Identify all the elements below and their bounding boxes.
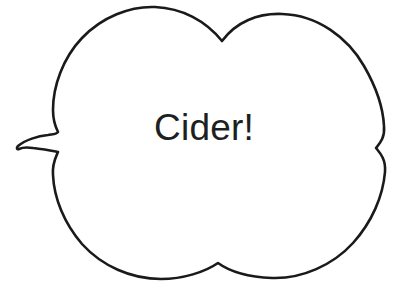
bubble-text: Cider! <box>0 106 408 150</box>
image-canvas: Cider! <box>0 0 408 294</box>
